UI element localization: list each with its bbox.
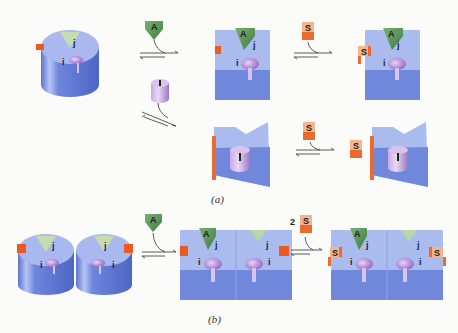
equilibrium-arrow-b2 (291, 237, 322, 256)
substrate-ligand-a1: S (302, 22, 314, 40)
dimer-activator-substrate-bound-enzyme: S A j i j i S (328, 228, 446, 300)
svg-text:j: j (365, 240, 369, 250)
equilibrium-arrow-b1 (142, 233, 176, 258)
panel-b-caption: (b) (208, 313, 221, 325)
svg-text:j: j (265, 240, 269, 250)
svg-text:S: S (306, 123, 312, 133)
svg-text:i: i (112, 260, 115, 270)
svg-text:i: i (40, 260, 43, 270)
site-j-label: j (72, 38, 76, 48)
svg-text:j: j (252, 40, 256, 50)
svg-text:S: S (305, 23, 311, 33)
svg-text:j: j (51, 241, 55, 251)
inhibitor-ligand (151, 79, 169, 103)
svg-text:j: j (416, 240, 420, 250)
dimer-activator-bound-enzyme: A j i j i (180, 228, 292, 300)
dimer-free-enzyme: j i j i (17, 234, 133, 295)
svg-text:A: A (240, 29, 247, 39)
activator-ligand-b: A (145, 214, 162, 232)
stoichiometry-label: 2 (290, 217, 295, 227)
svg-text:j: j (103, 241, 107, 251)
site-i-label: i (62, 57, 65, 67)
substrate-ligand-a2: S (303, 122, 315, 140)
activator-substrate-bound-enzyme: S A j i (358, 28, 420, 100)
inhibitor-substrate-bound-enzyme: S (350, 122, 428, 187)
svg-text:A: A (203, 229, 210, 239)
substrate-ligand-b: 2 S (290, 215, 312, 233)
diagram-canvas: j i A A j i S (0, 0, 458, 333)
svg-text:A: A (150, 215, 157, 225)
svg-text:i: i (236, 58, 239, 68)
svg-text:i: i (383, 58, 386, 68)
free-enzyme-cylinder: j i (36, 30, 99, 97)
inhibitor-bound-enzyme (212, 122, 270, 187)
svg-text:i: i (350, 257, 353, 267)
activator-bound-enzyme: A j i (215, 28, 270, 100)
svg-text:A: A (354, 229, 361, 239)
equilibrium-arrow-a1 (140, 40, 178, 59)
activator-ligand-a1: A (145, 21, 163, 40)
svg-text:S: S (361, 47, 367, 57)
svg-text:i: i (268, 257, 271, 267)
svg-text:A: A (388, 29, 395, 39)
equilibrium-arrow-a4 (296, 142, 334, 156)
svg-text:S: S (303, 216, 309, 226)
svg-text:S: S (332, 248, 338, 258)
svg-text:S: S (434, 248, 440, 258)
equilibrium-arrow-a3 (294, 42, 332, 59)
svg-text:i: i (198, 257, 201, 267)
panel-a-caption: (a) (211, 193, 224, 205)
equilibrium-arrow-a2 (142, 103, 176, 126)
svg-text:j: j (396, 40, 400, 50)
svg-text:j: j (214, 240, 218, 250)
svg-text:i: i (419, 257, 422, 267)
svg-text:S: S (353, 141, 359, 151)
svg-text:A: A (151, 22, 158, 32)
